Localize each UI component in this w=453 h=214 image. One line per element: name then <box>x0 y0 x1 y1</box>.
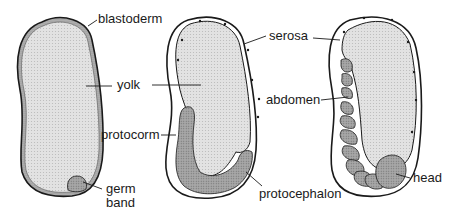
label-protocephalon: protocephalon <box>259 187 341 201</box>
label-germ-band-line1: germ <box>106 182 136 196</box>
label-germ-band-line2: band <box>106 196 135 210</box>
stage-3-egg <box>329 17 421 197</box>
stage-1-yolk <box>21 22 99 192</box>
label-serosa: serosa <box>269 29 308 43</box>
label-abdomen: abdomen <box>266 93 320 107</box>
label-blastoderm: blastoderm <box>98 12 162 26</box>
label-head: head <box>413 171 442 185</box>
stage-1-germ-band <box>67 176 86 192</box>
embryo-diagram <box>0 0 453 214</box>
stage-1-egg <box>18 18 104 197</box>
stage-2-egg <box>166 17 260 198</box>
label-protocorm: protocorm <box>101 128 160 142</box>
label-yolk: yolk <box>117 78 140 92</box>
